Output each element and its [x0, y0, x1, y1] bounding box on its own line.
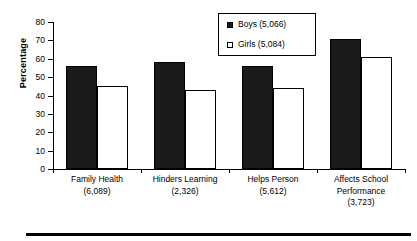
bar-boys	[330, 39, 361, 169]
bar-boys	[154, 62, 185, 169]
bar-group	[53, 22, 141, 169]
y-tick-label: 10	[36, 146, 45, 155]
x-category-label-line: Family Health	[53, 174, 141, 186]
x-tick-mark	[53, 169, 54, 173]
y-tick-label: 50	[36, 73, 45, 82]
y-tick-label: 70	[36, 36, 45, 45]
y-tick-label: 20	[36, 128, 45, 137]
x-tick-mark	[317, 169, 318, 173]
y-tick-label: 0	[40, 165, 45, 174]
legend-item-girls: Girls (5,084)	[227, 39, 308, 50]
x-category-label-line: (6,089)	[53, 186, 141, 198]
x-category-label-line: Performance	[317, 186, 405, 198]
y-tick-label: 40	[36, 91, 45, 100]
legend-swatch-filled-square-icon	[227, 22, 233, 28]
y-tick-label: 60	[36, 55, 45, 64]
x-category-label-line: (5,612)	[229, 186, 317, 198]
y-tick-label: 30	[36, 110, 45, 119]
bar-girls	[97, 86, 128, 169]
x-category-label: Family Health(6,089)	[53, 174, 141, 197]
x-category-label-line: Affects School	[317, 174, 405, 186]
x-category-label-line: (3,723)	[317, 197, 405, 209]
y-axis-title: Percentage	[18, 18, 28, 108]
x-category-label-line: Hinders Learning	[141, 174, 229, 186]
y-tick-label: 80	[36, 18, 45, 27]
bottom-divider	[26, 233, 411, 236]
x-category-label: Affects SchoolPerformance(3,723)	[317, 174, 405, 209]
x-category-label: Hinders Learning(2,326)	[141, 174, 229, 197]
x-category-label-line: (2,326)	[141, 186, 229, 198]
bar-chart: Percentage 01020304050607080 Family Heal…	[0, 0, 417, 241]
legend-swatch-open-square-icon	[227, 42, 233, 48]
bar-girls	[185, 90, 216, 169]
legend-label-boys: Boys (5,066)	[238, 19, 286, 30]
bar-girls	[273, 88, 304, 169]
bar-group	[317, 22, 405, 169]
x-category-label: Helps Person(5,612)	[229, 174, 317, 197]
bar-girls	[361, 57, 392, 169]
legend-label-girls: Girls (5,084)	[238, 39, 285, 50]
chart-legend: Boys (5,066) Girls (5,084)	[218, 13, 316, 56]
x-tick-mark	[141, 169, 142, 173]
legend-item-boys: Boys (5,066)	[227, 19, 308, 30]
bar-boys	[66, 66, 97, 169]
x-tick-mark	[405, 169, 406, 173]
x-category-label-line: Helps Person	[229, 174, 317, 186]
x-tick-mark	[229, 169, 230, 173]
bar-boys	[242, 66, 273, 169]
bar-group	[141, 22, 229, 169]
